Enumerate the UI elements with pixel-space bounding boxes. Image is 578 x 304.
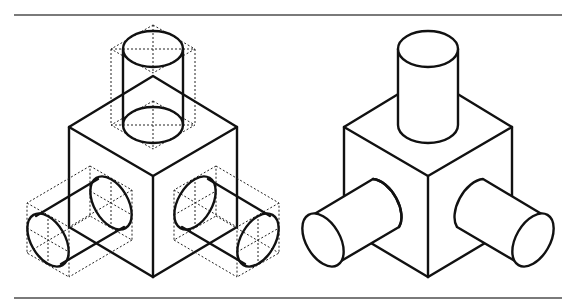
top-cylinder (398, 31, 458, 143)
construction-figure (0, 0, 578, 304)
right-finished-view (294, 31, 562, 277)
right-cylinder (455, 179, 563, 274)
left-construction-view (19, 25, 287, 277)
